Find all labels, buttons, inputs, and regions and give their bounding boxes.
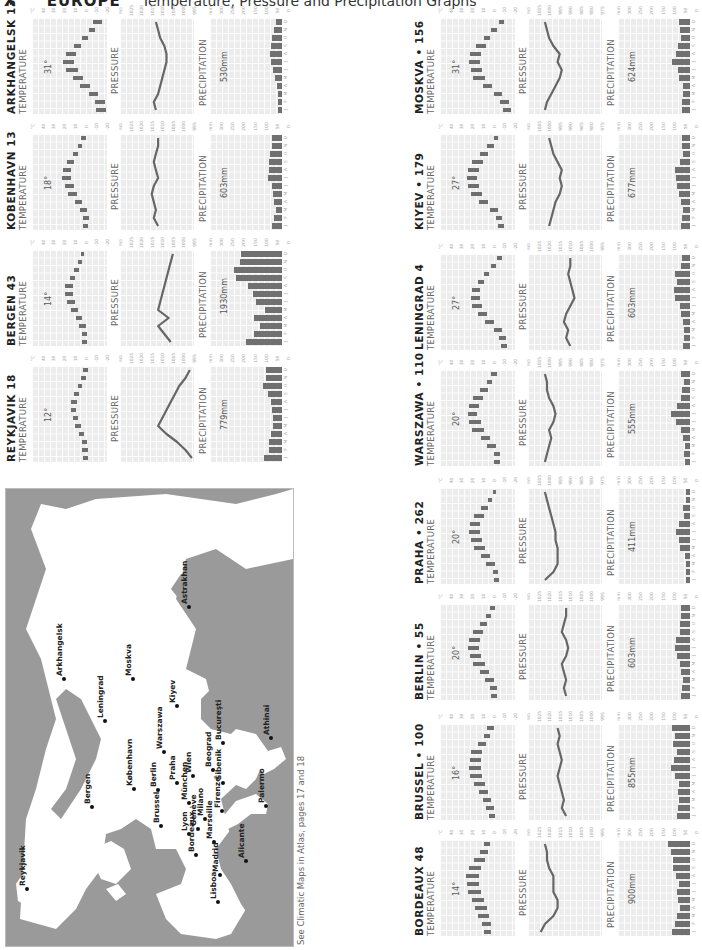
- precipitation-bar: [675, 295, 690, 302]
- month-label: J: [283, 415, 288, 421]
- precipitation-bar: [676, 873, 690, 880]
- temperature-label: TEMPERATURE: [426, 635, 436, 700]
- precipitation-bar: [675, 921, 690, 928]
- temperature-bar: [494, 328, 503, 332]
- temperature-bar: [487, 380, 492, 384]
- temperature-range-annotation: 27°: [452, 176, 461, 190]
- month-label: D: [691, 725, 696, 731]
- city-map-label: Warszawa: [155, 706, 164, 749]
- month-label: S: [691, 749, 696, 755]
- month-label: J: [691, 59, 696, 65]
- temperature-bar: [95, 100, 105, 104]
- month-label: F: [691, 569, 696, 575]
- temperature-bar: [71, 400, 77, 404]
- precipitation-axis-ticks: mm300250200150100500: [210, 356, 288, 364]
- month-label: J: [691, 529, 696, 535]
- precipitation-bar: [676, 51, 690, 58]
- temperature-axis-ticks: °C403020100-10-20: [32, 240, 107, 248]
- month-label: F: [691, 685, 696, 691]
- pressure-axis-ticks: mb102510201015101010051000995: [528, 244, 602, 252]
- city-panel-bergen: BERGEN 43TEMPERATURE°C403020100-10-2014°…: [2, 246, 292, 346]
- month-label: M: [691, 327, 696, 333]
- month-label: J: [283, 407, 288, 413]
- precipitation-bar: [254, 315, 282, 322]
- temperature-bar: [467, 882, 479, 886]
- precipitation-bar: [671, 849, 690, 856]
- city-map-label: Lisboa: [209, 872, 218, 899]
- precipitation-bar: [679, 191, 690, 198]
- precipitation-bar: [273, 423, 282, 430]
- pressure-axis-ticks: mb102510201015101010051000995: [528, 594, 602, 602]
- precipitation-bar: [274, 215, 282, 222]
- temperature-range-annotation: 27°: [452, 296, 461, 310]
- precipitation-bar: [682, 99, 690, 106]
- city-map-label: München: [180, 762, 189, 800]
- precipitation-bar: [241, 251, 282, 258]
- precipitation-bar: [270, 151, 282, 158]
- month-label: M: [283, 75, 288, 81]
- temperature-label: TEMPERATURE: [426, 165, 436, 230]
- precipitation-bar: [675, 271, 690, 278]
- month-label: S: [691, 395, 696, 401]
- precipitation-bar: [683, 343, 690, 350]
- temperature-axis-ticks: °C403020100-10-20: [440, 714, 515, 722]
- precipitation-axis-ticks: mm300250200150100500: [210, 8, 288, 16]
- month-label: D: [691, 135, 696, 141]
- temperature-bar: [480, 152, 489, 156]
- temperature-bar: [76, 316, 82, 320]
- precipitation-bar: [263, 383, 282, 390]
- pressure-line: [120, 18, 194, 114]
- month-label: O: [691, 741, 696, 747]
- precipitation-bar: [260, 323, 282, 330]
- temperature-bar: [74, 392, 79, 396]
- precipitation-axis-ticks: mm300250200150100500: [210, 124, 288, 132]
- temperature-range-annotation: 31°: [452, 60, 461, 74]
- temperature-range-annotation: 31°: [44, 60, 53, 74]
- temperature-bar: [469, 404, 479, 408]
- precipitation-bar: [680, 159, 690, 166]
- precipitation-bar: [272, 223, 282, 230]
- precipitation-label: PRECIPITATION: [606, 745, 616, 812]
- temperature-bar: [481, 506, 489, 510]
- temperature-label: TEMPERATURE: [18, 49, 28, 114]
- temperature-bar: [78, 260, 82, 264]
- precipitation-bar: [271, 431, 282, 438]
- month-label: N: [283, 375, 288, 381]
- temperature-bar: [66, 52, 76, 56]
- month-label: F: [283, 331, 288, 337]
- temperature-bar: [62, 176, 71, 180]
- month-label: A: [691, 553, 696, 559]
- temperature-bar: [487, 444, 496, 448]
- month-label: J: [691, 765, 696, 771]
- city-map-label: København: [125, 739, 134, 786]
- month-label: A: [691, 403, 696, 409]
- city-map-label: Alicante: [237, 824, 246, 858]
- precipitation-bar: [679, 521, 690, 528]
- precipitation-bar: [240, 259, 282, 266]
- precipitation-bar: [678, 43, 690, 50]
- temperature-bar: [468, 646, 479, 650]
- pressure-axis-ticks: mb10051000995990985980975: [528, 360, 602, 368]
- city-map-label: Bordeaux: [187, 812, 196, 852]
- temperature-bar: [83, 456, 87, 460]
- city-marker: [132, 787, 136, 791]
- month-label: O: [691, 505, 696, 511]
- temperature-bar: [75, 200, 83, 204]
- pressure-line: [120, 250, 194, 346]
- precipitation-bar: [673, 857, 690, 864]
- city-marker: [269, 736, 273, 740]
- precipitation-bar: [681, 693, 690, 700]
- precipitation-bar: [681, 371, 690, 378]
- temperature-label: TEMPERATURE: [426, 401, 436, 466]
- pressure-label: PRESSURE: [518, 47, 528, 94]
- precipitation-bar: [677, 653, 690, 660]
- precipitation-bar: [682, 107, 690, 114]
- temperature-bar: [483, 798, 492, 802]
- pressure-label: PRESSURE: [518, 633, 528, 680]
- temperature-bar: [493, 570, 498, 574]
- temperature-bar: [480, 388, 489, 392]
- precipitation-bar: [256, 299, 282, 306]
- month-label: O: [283, 151, 288, 157]
- city-panel-arkhangelsk: ARKHANGELSK 13TEMPERATURE°C403020100-10-…: [2, 14, 292, 114]
- month-label: A: [691, 319, 696, 325]
